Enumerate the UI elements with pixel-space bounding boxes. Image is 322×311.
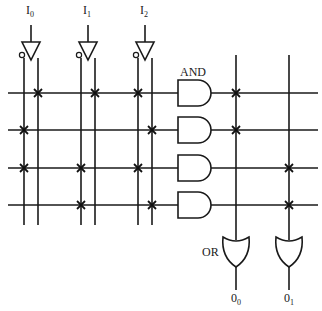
input-buffers	[19, 25, 154, 225]
inverter-bubble-icon-0	[19, 52, 24, 57]
and-gate-icon-0	[178, 80, 211, 106]
and-gate-icon-3	[178, 192, 211, 218]
input-label-2: I2	[140, 3, 148, 19]
and-array-label: AND	[180, 65, 206, 79]
or-gate-icon-1	[276, 237, 302, 267]
buffer-icon-1	[79, 42, 97, 60]
buffer-icon-2	[136, 42, 154, 60]
inverter-bubble-icon-2	[133, 52, 138, 57]
outputs: 0001	[231, 267, 294, 307]
or-gate-icon-0	[223, 237, 249, 267]
and-gate-icon-1	[178, 117, 211, 143]
output-label-1: 01	[284, 291, 294, 307]
output-label-0: 00	[231, 291, 241, 307]
input-label-0: I0	[26, 3, 34, 19]
or-array-label: OR	[202, 245, 219, 259]
pla-diagram: I0I1I2 0001 AND OR	[0, 0, 322, 311]
and-gate-icon-2	[178, 155, 211, 181]
input-label-1: I1	[83, 3, 91, 19]
input-labels: I0I1I2	[26, 3, 148, 19]
connection-crosses	[20, 89, 293, 209]
or-array	[223, 55, 302, 267]
buffer-icon-0	[22, 42, 40, 60]
and-gates	[178, 80, 211, 218]
inverter-bubble-icon-1	[76, 52, 81, 57]
and-array-rows	[8, 93, 318, 205]
